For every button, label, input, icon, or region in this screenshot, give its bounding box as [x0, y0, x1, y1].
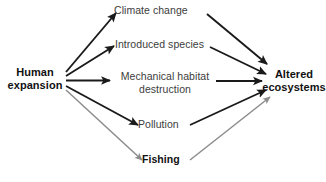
edge-human-expansion-to-fishing [66, 90, 142, 160]
node-climate-change: Climate change [114, 4, 206, 17]
node-introduced-species: Introduced species [115, 38, 211, 51]
edge-human-expansion-to-climate-change [66, 13, 116, 72]
node-mechanical-habitat-destruction: Mechanical habitat destruction [110, 70, 220, 95]
edge-pollution-to-altered-ecosystems [190, 90, 266, 125]
node-altered-ecosystems: Altered ecosystems [262, 68, 326, 94]
node-fishing: Fishing [142, 153, 194, 166]
diagram-canvas: Human expansion Climate change Introduce… [0, 0, 326, 182]
edge-climate-change-to-altered-ecosystems [207, 14, 267, 64]
edge-human-expansion-to-introduced-species [66, 46, 114, 76]
node-human-expansion: Human expansion [4, 66, 66, 92]
node-pollution: Pollution [138, 118, 194, 131]
